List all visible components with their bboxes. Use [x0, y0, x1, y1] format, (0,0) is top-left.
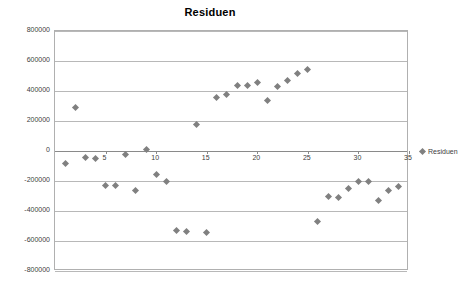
data-point	[72, 104, 79, 111]
gridline	[55, 31, 407, 32]
data-point	[264, 97, 271, 104]
y-axis-tick-label: -600000	[0, 236, 50, 243]
x-axis-tick-label: 25	[297, 154, 317, 161]
gridline	[55, 211, 407, 212]
x-axis-tick-label: 30	[347, 154, 367, 161]
data-point	[213, 93, 220, 100]
data-point	[325, 192, 332, 199]
plot-area	[54, 30, 408, 270]
data-point	[234, 81, 241, 88]
gridline	[55, 61, 407, 62]
x-axis-tick-label: 5	[95, 154, 115, 161]
gridline	[55, 121, 407, 122]
y-axis-tick-label: 800000	[0, 26, 50, 33]
data-point	[395, 183, 402, 190]
data-point	[183, 228, 190, 235]
gridline	[55, 91, 407, 92]
gridline	[55, 271, 407, 272]
data-point	[335, 194, 342, 201]
data-point	[365, 177, 372, 184]
data-point	[355, 177, 362, 184]
data-point	[314, 218, 321, 225]
x-axis-line	[55, 151, 407, 152]
data-point	[254, 78, 261, 85]
data-point	[274, 83, 281, 90]
data-point	[284, 77, 291, 84]
y-axis-tick-label: 400000	[0, 86, 50, 93]
data-point	[163, 178, 170, 185]
y-axis-tick-label: 200000	[0, 116, 50, 123]
data-point	[244, 81, 251, 88]
data-point	[294, 69, 301, 76]
data-point	[153, 171, 160, 178]
data-point	[173, 227, 180, 234]
chart-title: Residuen	[0, 6, 420, 18]
data-point	[112, 182, 119, 189]
y-axis-tick-label: 0	[0, 146, 50, 153]
x-axis-tick-label: 10	[145, 154, 165, 161]
y-axis-tick-label: -800000	[0, 266, 50, 273]
x-axis-tick-label: 35	[398, 154, 418, 161]
y-axis-tick-label: 600000	[0, 56, 50, 63]
legend-label: Residuen	[428, 148, 458, 155]
y-axis-tick-label: -400000	[0, 206, 50, 213]
data-point	[132, 187, 139, 194]
legend-marker-icon	[419, 148, 426, 155]
data-point	[203, 228, 210, 235]
y-axis-tick-label: -200000	[0, 176, 50, 183]
data-point	[304, 66, 311, 73]
data-point	[345, 185, 352, 192]
x-axis-tick-label: 15	[196, 154, 216, 161]
data-point	[82, 153, 89, 160]
gridline	[55, 241, 407, 242]
data-point	[62, 159, 69, 166]
chart-container: Residuen Residuen -800000-600000-400000-…	[0, 0, 474, 301]
data-point	[375, 197, 382, 204]
data-point	[102, 182, 109, 189]
data-point	[385, 186, 392, 193]
chart-legend: Residuen	[420, 148, 458, 155]
x-axis-tick-label: 20	[246, 154, 266, 161]
